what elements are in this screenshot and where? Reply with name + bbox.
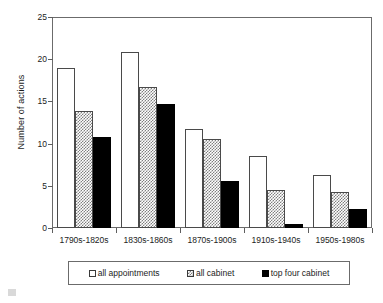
x-tick-mark: [308, 228, 309, 233]
legend-swatch-icon: [187, 270, 194, 277]
chart-legend: all appointmentsall cabinettop four cabi…: [68, 261, 350, 285]
bar-1790s-1820s-top-four-cabinet: [93, 137, 111, 228]
y-tick-label: 10: [19, 140, 47, 148]
bar-1870s-1900s-all-cabinet: [203, 139, 221, 228]
legend-swatch-icon: [89, 270, 96, 277]
bar-1950s-1980s-top-four-cabinet: [349, 209, 367, 228]
bar-1910s-1940s-all-appointments: [249, 156, 267, 228]
x-tick-mark: [116, 228, 117, 233]
y-tick-label: 20: [19, 55, 47, 63]
bar-1950s-1980s-all-appointments: [313, 175, 331, 228]
bar-1870s-1900s-top-four-cabinet: [221, 181, 239, 228]
x-tick-mark: [244, 228, 245, 233]
legend-label: all appointments: [98, 268, 160, 278]
y-axis-title: Number of actions: [16, 57, 26, 167]
x-tick-mark: [52, 228, 53, 233]
y-tick-label: 0: [19, 224, 47, 232]
legend-label: top four cabinet: [271, 268, 330, 278]
legend-item-all-appointments[interactable]: all appointments: [89, 268, 160, 278]
x-tick-mark: [372, 228, 373, 233]
bar-1870s-1900s-all-appointments: [185, 129, 203, 228]
bar-chart: Number of actions 0510152025 1790s-1820s…: [0, 0, 383, 303]
bar-1790s-1820s-all-cabinet: [75, 111, 93, 228]
legend-swatch-icon: [262, 270, 269, 277]
x-tick-mark: [180, 228, 181, 233]
y-tick-label: 5: [19, 182, 47, 190]
y-tick-label: 15: [19, 97, 47, 105]
bar-1950s-1980s-all-cabinet: [331, 192, 349, 228]
bar-1910s-1940s-top-four-cabinet: [285, 224, 303, 228]
x-tick-label-1950s-1980s: 1950s-1980s: [302, 235, 378, 245]
bar-1830s-1860s-top-four-cabinet: [157, 104, 175, 228]
y-tick-label: 25: [19, 13, 47, 21]
bar-1830s-1860s-all-cabinet: [139, 87, 157, 228]
bar-1790s-1820s-all-appointments: [57, 68, 75, 228]
legend-label: all cabinet: [196, 268, 234, 278]
legend-item-top-four-cabinet[interactable]: top four cabinet: [262, 268, 330, 278]
bar-1830s-1860s-all-appointments: [121, 52, 139, 228]
bars-layer: [52, 17, 372, 228]
bar-1910s-1940s-all-cabinet: [267, 190, 285, 228]
scan-artifact: [8, 289, 16, 296]
legend-item-all-cabinet[interactable]: all cabinet: [187, 268, 234, 278]
